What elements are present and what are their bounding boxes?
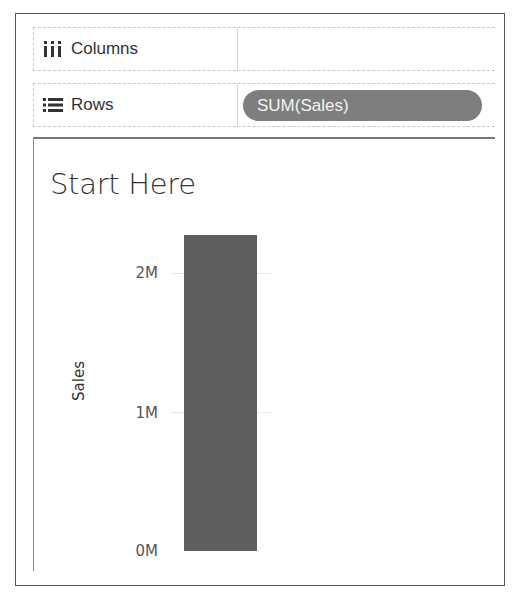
columns-icon: [42, 40, 64, 58]
rows-icon: [42, 96, 64, 114]
y-tick-1m: 1M: [118, 404, 158, 422]
rows-shelf-label: Rows: [34, 84, 238, 126]
rows-shelf: Rows SUM(Sales): [33, 83, 495, 127]
y-tick-2m: 2M: [118, 264, 158, 282]
sales-bar[interactable]: [184, 235, 257, 551]
rows-label-text: Rows: [71, 95, 114, 115]
columns-drop-zone[interactable]: [238, 28, 495, 70]
columns-shelf: Columns: [33, 27, 495, 71]
y-tick-0m: 0M: [118, 542, 158, 560]
y-axis[interactable]: 2M 1M 0M: [34, 139, 154, 571]
rows-drop-zone[interactable]: SUM(Sales): [238, 84, 495, 126]
view-pane: Start Here Sales 2M 1M 0M: [33, 137, 495, 571]
pill-label: SUM(Sales): [257, 96, 349, 116]
columns-label-text: Columns: [71, 39, 138, 59]
sum-sales-pill[interactable]: SUM(Sales): [243, 90, 482, 121]
columns-shelf-label: Columns: [34, 28, 238, 70]
